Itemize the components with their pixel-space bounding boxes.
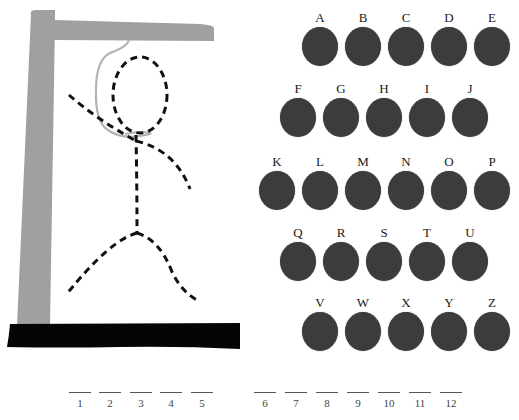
figure-right-arm [136, 141, 190, 189]
letter-disc-icon[interactable] [366, 242, 402, 281]
slot-number: 7 [279, 397, 313, 409]
slot-underline [130, 392, 152, 393]
letter-slot-9: 9 [347, 392, 369, 414]
letter-button-b[interactable]: B [345, 11, 381, 67]
slot-underline [160, 392, 182, 393]
letter-label: I [409, 82, 445, 96]
letter-button-f[interactable]: F [280, 82, 316, 138]
letter-disc-icon[interactable] [345, 171, 381, 210]
slot-underline [347, 392, 369, 393]
slot-underline [191, 392, 213, 393]
letter-button-u[interactable]: U [452, 226, 488, 282]
letter-button-o[interactable]: O [431, 155, 467, 211]
letter-disc-icon[interactable] [345, 27, 381, 66]
slot-number: 3 [124, 397, 158, 409]
slot-underline [254, 392, 276, 393]
hangman-drawing [0, 0, 260, 360]
letter-label: D [431, 11, 467, 25]
slot-underline [409, 392, 431, 393]
letter-disc-icon[interactable] [388, 171, 424, 210]
letter-slot-1: 1 [69, 392, 91, 414]
letter-button-g[interactable]: G [323, 82, 359, 138]
letter-button-c[interactable]: C [388, 11, 424, 67]
letter-slot-10: 10 [378, 392, 400, 414]
letter-label: C [388, 11, 424, 25]
letter-disc-icon[interactable] [323, 242, 359, 281]
letter-disc-icon[interactable] [452, 98, 488, 137]
letter-label: N [388, 155, 424, 169]
letter-button-r[interactable]: R [323, 226, 359, 282]
letter-slot-8: 8 [316, 392, 338, 414]
letter-disc-icon[interactable] [431, 27, 467, 66]
letter-disc-icon[interactable] [431, 312, 467, 351]
letter-button-h[interactable]: H [366, 82, 402, 138]
letter-label: X [388, 296, 424, 310]
letter-button-z[interactable]: Z [474, 296, 510, 352]
letter-disc-icon[interactable] [280, 98, 316, 137]
letter-label: G [323, 82, 359, 96]
letter-slot-2: 2 [99, 392, 121, 414]
slot-number: 12 [434, 397, 468, 409]
letter-button-y[interactable]: Y [431, 296, 467, 352]
letter-disc-icon[interactable] [302, 171, 338, 210]
slot-number: 10 [372, 397, 406, 409]
letter-slot-7: 7 [285, 392, 307, 414]
letter-label: E [474, 11, 510, 25]
letter-button-p[interactable]: P [474, 155, 510, 211]
letter-label: R [323, 226, 359, 240]
letter-disc-icon[interactable] [452, 242, 488, 281]
letter-disc-icon[interactable] [302, 27, 338, 66]
letter-label: L [302, 155, 338, 169]
letter-label: K [259, 155, 295, 169]
letter-disc-icon[interactable] [302, 312, 338, 351]
slot-number: 4 [154, 397, 188, 409]
letter-button-l[interactable]: L [302, 155, 338, 211]
letter-slot-6: 6 [254, 392, 276, 414]
letter-button-a[interactable]: A [302, 11, 338, 67]
letter-disc-icon[interactable] [409, 242, 445, 281]
slot-underline [378, 392, 400, 393]
letter-button-k[interactable]: K [259, 155, 295, 211]
letter-disc-icon[interactable] [474, 27, 510, 66]
letter-slot-4: 4 [160, 392, 182, 414]
letter-label: Z [474, 296, 510, 310]
letter-disc-icon[interactable] [388, 27, 424, 66]
letter-button-j[interactable]: J [452, 82, 488, 138]
letter-disc-icon[interactable] [259, 171, 295, 210]
letter-disc-icon[interactable] [345, 312, 381, 351]
letter-button-i[interactable]: I [409, 82, 445, 138]
letter-label: U [452, 226, 488, 240]
figure-left-leg [66, 233, 137, 295]
letter-button-n[interactable]: N [388, 155, 424, 211]
letter-button-q[interactable]: Q [280, 226, 316, 282]
slot-number: 2 [93, 397, 127, 409]
letter-disc-icon[interactable] [366, 98, 402, 137]
letter-button-v[interactable]: V [302, 296, 338, 352]
letter-button-m[interactable]: M [345, 155, 381, 211]
letter-slot-12: 12 [440, 392, 462, 414]
figure-head [113, 57, 167, 133]
letter-slot-5: 5 [191, 392, 213, 414]
letter-disc-icon[interactable] [280, 242, 316, 281]
letter-disc-icon[interactable] [409, 98, 445, 137]
letter-disc-icon[interactable] [431, 171, 467, 210]
letter-disc-icon[interactable] [474, 171, 510, 210]
letter-label: W [345, 296, 381, 310]
letter-label: B [345, 11, 381, 25]
letter-button-e[interactable]: E [474, 11, 510, 67]
letter-disc-icon[interactable] [323, 98, 359, 137]
letter-label: O [431, 155, 467, 169]
letter-button-s[interactable]: S [366, 226, 402, 282]
letter-button-w[interactable]: W [345, 296, 381, 352]
letter-label: T [409, 226, 445, 240]
figure-right-leg [137, 233, 197, 300]
letter-label: F [280, 82, 316, 96]
letter-button-d[interactable]: D [431, 11, 467, 67]
letter-label: H [366, 82, 402, 96]
letter-disc-icon[interactable] [388, 312, 424, 351]
letter-disc-icon[interactable] [474, 312, 510, 351]
letter-button-x[interactable]: X [388, 296, 424, 352]
letter-label: Y [431, 296, 467, 310]
letter-button-t[interactable]: T [409, 226, 445, 282]
letter-slot-3: 3 [130, 392, 152, 414]
